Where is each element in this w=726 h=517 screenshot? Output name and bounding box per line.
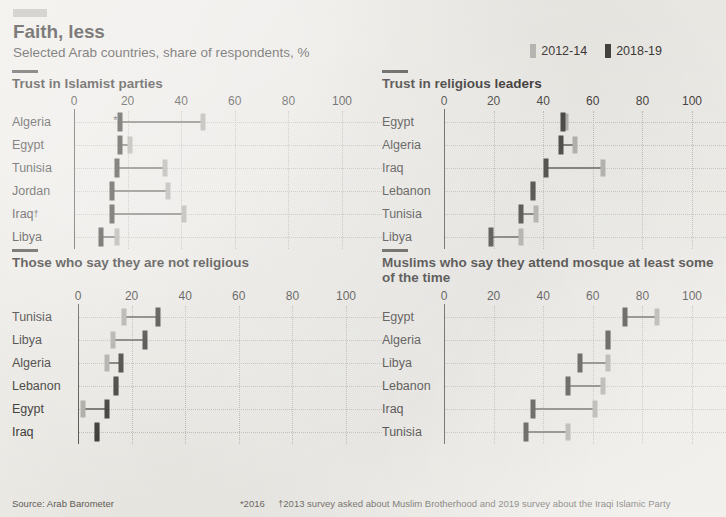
dumbbell-connector [117,167,165,169]
dumbbell-connector [491,236,521,238]
x-axis-tick-label: 60 [232,290,245,302]
x-axis-tick-label: 100 [682,290,702,302]
dumbbell-row [74,226,382,249]
plot-wrap: TunisiaLibyaAlgeriaLebanonEgyptIraq02040… [12,289,382,444]
dumbbell-row [444,203,726,226]
x-axis-tick-label: 80 [282,95,295,107]
category-label: Libya [12,226,74,249]
dumbbell-row: * [74,111,382,134]
category-label: Libya [12,329,78,352]
marker-2018-19 [489,228,494,247]
marker-2012-14 [200,114,205,131]
legend-label-new: 2018-19 [616,44,662,58]
panel-rule [382,70,408,73]
marker-2018-19 [105,400,110,419]
x-axis-tick-label: 100 [682,95,702,107]
category-label: Jordan [12,180,74,203]
legend-swatch-old-icon [530,44,536,58]
dumbbell-connector [580,362,607,364]
category-label: Algeria [382,329,444,352]
category-label: Tunisia [12,306,78,329]
marker-2012-14 [128,137,133,154]
marker-2012-14 [121,309,126,326]
plot-body [444,111,726,249]
x-axis-tick-labels: 020406080100 [444,94,726,111]
page-subtitle: Selected Arab countries, share of respon… [13,46,309,61]
x-axis-tick-label: 40 [537,290,550,302]
legend-swatch-new-icon [605,44,611,58]
x-axis-tick-label: 60 [586,290,599,302]
x-axis-tick-label: 60 [228,95,241,107]
marker-2012-14 [655,309,660,326]
dumbbell-row [74,180,382,203]
plot-area: 020406080100* [74,94,382,249]
marker-2018-19 [114,159,119,178]
dumbbell-connector [568,385,603,387]
category-label: Egypt [382,306,444,329]
dumbbell-row [78,352,382,375]
x-axis-tick-label: 40 [175,95,188,107]
category-label: Lebanon [382,375,444,398]
brand-rule [13,9,47,17]
marker-2018-19 [518,205,523,224]
dumbbell-row [78,375,382,398]
marker-2018-19 [531,400,536,419]
x-axis-tick-label: 0 [441,95,448,107]
marker-2018-19 [523,423,528,442]
dumbbell-row [444,352,726,375]
dumbbell-connector [526,431,568,433]
marker-2018-19 [109,205,114,224]
category-label: Algeria [12,111,74,134]
x-axis-tick-label: 20 [487,290,500,302]
dumbbell-row [78,398,382,421]
x-axis-tick-label: 20 [121,95,134,107]
category-label: Egypt [12,134,74,157]
category-label: Tunisia [12,157,74,180]
marker-2018-19 [143,331,148,350]
marker-2012-14 [81,401,86,418]
category-label: Lebanon [382,180,444,203]
marker-2018-19 [109,182,114,201]
x-axis-tick-label: 80 [636,290,649,302]
dumbbell-row [444,180,726,203]
x-axis-tick-label: 20 [125,290,138,302]
header-left: Faith, less Selected Arab countries, sha… [12,8,309,61]
plot-wrap: AlgeriaEgyptTunisiaJordanIraq†Libya02040… [12,94,382,249]
chart-panel-attend-mosque: Muslims who say they attend mosque at le… [382,249,726,444]
legend-label-old: 2012-14 [541,44,587,58]
marker-2018-19 [561,113,566,132]
x-axis-tick-label: 40 [537,95,550,107]
x-axis-tick-labels: 020406080100 [78,289,382,306]
marker-2018-19 [117,136,122,155]
marker-2012-14 [181,206,186,223]
x-axis-tick-label: 0 [71,95,78,107]
plot-body [78,306,382,444]
x-axis-tick-label: 20 [487,95,500,107]
dumbbell-row [444,306,726,329]
marker-2018-19 [531,182,536,201]
marker-2018-19 [605,331,610,350]
panel-title: Those who say they are not religious [12,255,382,287]
footnotes: *2016 †2013 survey asked about Muslim Br… [240,498,670,509]
marker-2012-14 [110,332,115,349]
dumbbell-row [74,203,382,226]
marker-2018-19 [543,159,548,178]
panel-rule [12,249,38,252]
plot-body: * [74,111,382,249]
category-label: Tunisia [382,203,444,226]
dumbbell-row [444,375,726,398]
marker-2018-19 [118,354,123,373]
marker-2012-14 [105,355,110,372]
chart-footer: Source: Arab Barometer *2016 †2013 surve… [12,498,716,509]
category-axis: AlgeriaEgyptTunisiaJordanIraq†Libya [12,94,74,249]
marker-2012-14 [518,229,523,246]
chart-panel-trust-religious-leaders: Trust in religious leadersEgyptAlgeriaIr… [382,70,726,249]
x-axis-tick-label: 80 [286,290,299,302]
footnote-star: *2016 [240,498,265,509]
plot-body [444,306,726,444]
category-label: Algeria [382,134,444,157]
dumbbell-row [78,306,382,329]
marker-2012-14 [593,401,598,418]
dumbbell-connector [533,408,595,410]
marker-2018-19 [558,136,563,155]
